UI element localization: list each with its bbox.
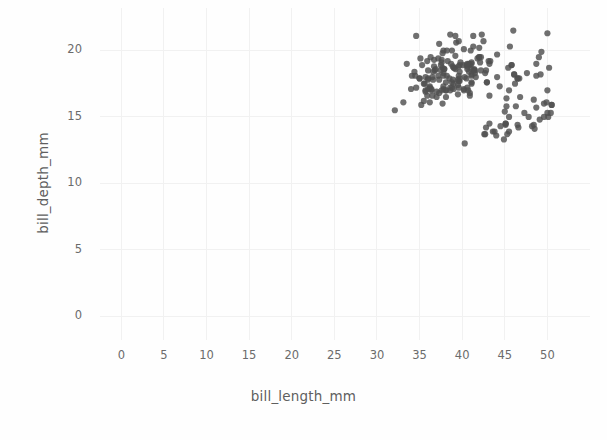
data-point [506, 128, 512, 134]
data-point [494, 74, 500, 80]
data-point [503, 122, 509, 128]
data-point [436, 41, 442, 47]
data-point [509, 62, 515, 68]
y-tick-label: 0 [42, 310, 82, 322]
scatter-plot-figure: 05101520253035404550 05101520 bill_lengt… [0, 0, 607, 440]
data-point [517, 94, 523, 100]
data-point [544, 30, 550, 36]
x-tick-label: 25 [327, 350, 342, 362]
data-point [480, 38, 486, 44]
y-axis-title: bill_depth_mm [35, 88, 51, 278]
data-point [425, 77, 431, 83]
x-tick-label: 15 [242, 350, 257, 362]
data-point [533, 61, 539, 67]
data-point [472, 67, 478, 73]
data-point [533, 105, 539, 111]
data-point [457, 75, 463, 81]
x-tick-label: 0 [118, 350, 125, 362]
data-point [507, 43, 513, 49]
data-point [503, 103, 509, 109]
x-tick-label: 40 [455, 350, 470, 362]
data-point [536, 54, 542, 60]
data-point [467, 93, 473, 99]
data-point [425, 86, 431, 92]
data-point [430, 69, 436, 75]
data-point [400, 99, 406, 105]
data-point [435, 55, 441, 61]
data-point [461, 46, 467, 52]
data-point [439, 101, 445, 107]
data-point [546, 65, 552, 71]
data-point [544, 87, 550, 93]
data-point [487, 58, 493, 64]
data-point [456, 38, 462, 44]
data-point [503, 95, 509, 101]
x-tick-label: 5 [160, 350, 167, 362]
data-point [502, 108, 508, 114]
data-point [501, 136, 507, 142]
x-tick-label: 20 [284, 350, 299, 362]
plot-area [100, 8, 590, 340]
data-point [476, 54, 482, 60]
data-point [427, 99, 433, 105]
data-point [543, 99, 549, 105]
data-point [484, 79, 490, 85]
data-point [404, 61, 410, 67]
data-point [470, 33, 476, 39]
data-point [482, 131, 488, 137]
data-point [440, 73, 446, 79]
data-point [491, 128, 497, 134]
data-point [494, 51, 500, 57]
data-point [445, 58, 451, 64]
data-point [452, 66, 458, 72]
data-point [408, 86, 414, 92]
data-point [531, 97, 537, 103]
x-tick-label: 35 [412, 350, 427, 362]
data-point [428, 54, 434, 60]
data-point [521, 110, 527, 116]
data-point [455, 91, 461, 97]
data-point [392, 107, 398, 113]
data-point [452, 33, 458, 39]
data-point [413, 33, 419, 39]
data-point [486, 120, 492, 126]
x-tick-label: 45 [497, 350, 512, 362]
data-point [548, 110, 554, 116]
x-tick-label: 50 [540, 350, 555, 362]
data-point [451, 86, 457, 92]
data-point [513, 103, 519, 109]
data-point [537, 71, 543, 77]
data-point [462, 140, 468, 146]
data-point [452, 53, 458, 59]
data-point [439, 50, 445, 56]
data-point [479, 31, 485, 37]
x-tick-label: 30 [370, 350, 385, 362]
data-point [468, 47, 474, 53]
x-tick-label: 10 [199, 350, 214, 362]
data-point [514, 122, 520, 128]
y-tick-label: 20 [42, 45, 82, 57]
data-point [436, 90, 442, 96]
data-point [497, 83, 503, 89]
data-point [524, 70, 530, 76]
scatter-points-layer [100, 8, 590, 340]
data-point [511, 71, 517, 77]
data-point [532, 126, 538, 132]
data-point [477, 59, 483, 65]
data-point [476, 45, 482, 51]
data-point [419, 62, 425, 68]
data-point [438, 67, 444, 73]
data-point [424, 93, 430, 99]
data-point [538, 49, 544, 55]
data-point [486, 93, 492, 99]
data-point [512, 81, 518, 87]
data-point [510, 27, 516, 33]
data-point [465, 87, 471, 93]
data-point [418, 102, 424, 108]
x-axis-title: bill_length_mm [0, 388, 607, 404]
data-point [482, 70, 488, 76]
data-point [416, 75, 422, 81]
data-point [443, 79, 449, 85]
data-point [417, 55, 423, 61]
data-point [506, 114, 512, 120]
